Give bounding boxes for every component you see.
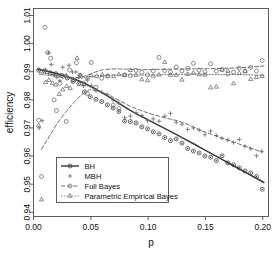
- data-point: [94, 74, 98, 78]
- data-point: [214, 69, 218, 73]
- data-point: [64, 119, 68, 123]
- data-point: [61, 65, 65, 69]
- data-point: [68, 86, 72, 90]
- y-tick-label: 0.96: [23, 148, 33, 165]
- legend-label: MBH: [85, 172, 102, 181]
- data-point: [193, 150, 195, 152]
- data-point: [237, 137, 241, 141]
- data-point: [49, 72, 51, 74]
- legend-label: Full Bayes: [85, 182, 121, 191]
- x-tick-label: 0.20: [254, 222, 271, 232]
- data-point: [254, 154, 258, 158]
- data-point: [54, 109, 58, 113]
- data-point: [191, 61, 195, 65]
- data-point: [147, 128, 149, 130]
- data-point: [260, 59, 264, 63]
- chart-legend: BHMBHFull BayesParametric Empirical Baye…: [57, 158, 178, 203]
- y-tick-label: 1.01: [23, 7, 33, 24]
- data-point: [250, 172, 252, 174]
- efficiency-vs-p-scatter-plot: 0.000.050.100.150.200.940.950.960.970.98…: [0, 0, 275, 258]
- data-point: [214, 84, 218, 88]
- data-point: [57, 92, 61, 96]
- data-point: [180, 69, 184, 73]
- trend-line: [42, 90, 263, 152]
- data-point: [39, 197, 43, 201]
- data-point: [40, 175, 44, 179]
- data-point: [95, 99, 97, 101]
- y-tick-label: 0.97: [23, 119, 33, 136]
- y-tick-label: 0.99: [23, 63, 33, 80]
- y-axis-title: efficiency: [4, 92, 15, 134]
- data-point: [208, 129, 212, 133]
- data-point: [89, 73, 93, 77]
- data-point: [140, 70, 144, 74]
- data-point: [49, 62, 53, 66]
- x-tick-label: 0.00: [25, 222, 42, 232]
- data-point: [74, 70, 78, 74]
- data-point: [203, 133, 207, 137]
- data-point: [157, 72, 161, 76]
- data-point: [122, 116, 126, 120]
- data-point: [107, 104, 109, 106]
- legend-label: BH: [85, 162, 96, 171]
- data-point: [89, 96, 91, 98]
- y-tick-label: 0.98: [23, 91, 33, 108]
- data-point: [49, 56, 53, 60]
- data-point: [52, 98, 56, 102]
- x-tick-label: 0.10: [140, 222, 157, 232]
- data-point: [153, 131, 155, 133]
- data-point: [175, 138, 177, 140]
- data-point: [44, 70, 46, 72]
- data-point: [187, 148, 189, 150]
- data-point: [135, 122, 137, 124]
- data-point: [128, 114, 132, 118]
- data-point: [209, 62, 213, 66]
- data-point: [74, 61, 78, 65]
- y-tick-label: 0.94: [23, 204, 33, 221]
- data-point: [78, 83, 80, 85]
- y-tick-label: 0.95: [23, 176, 33, 193]
- data-point: [233, 164, 235, 166]
- data-point: [128, 68, 132, 72]
- data-point: [157, 119, 161, 123]
- data-point: [55, 73, 57, 75]
- data-point: [89, 60, 93, 64]
- data-point: [37, 123, 41, 127]
- data-point: [124, 120, 126, 122]
- data-point: [67, 63, 71, 67]
- series-mbh: [37, 51, 264, 158]
- data-point: [117, 72, 121, 76]
- data-point: [210, 156, 212, 158]
- data-point: [237, 71, 241, 75]
- data-point: [141, 126, 143, 128]
- series-full-bayes: [37, 25, 265, 178]
- data-point: [186, 72, 190, 76]
- data-point: [220, 136, 224, 140]
- x-tick-label: 0.15: [197, 222, 214, 232]
- data-point: [128, 74, 132, 78]
- data-point: [111, 103, 115, 107]
- data-point: [134, 73, 138, 77]
- data-point: [259, 149, 263, 153]
- data-point: [198, 152, 200, 154]
- data-point: [38, 69, 40, 71]
- data-point: [174, 65, 178, 69]
- data-point: [100, 76, 104, 80]
- data-point: [239, 167, 241, 169]
- x-axis-title: p: [148, 237, 154, 248]
- data-point: [158, 133, 160, 135]
- data-point: [180, 77, 184, 81]
- data-point: [164, 137, 166, 139]
- data-point: [100, 72, 104, 76]
- data-point: [261, 188, 263, 190]
- data-point: [204, 155, 206, 157]
- data-point: [226, 138, 230, 142]
- data-point: [191, 70, 195, 74]
- data-point: [151, 117, 155, 121]
- data-point: [249, 77, 253, 81]
- data-point: [54, 83, 58, 87]
- data-point: [227, 162, 229, 164]
- data-point: [254, 69, 258, 73]
- legend-marker-circle-dot: [69, 165, 71, 167]
- data-point: [216, 160, 218, 162]
